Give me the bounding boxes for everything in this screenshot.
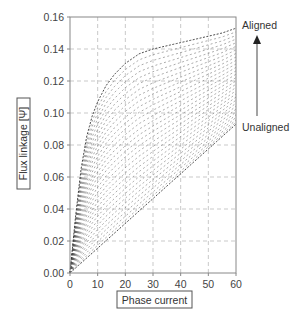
intermediate-curve xyxy=(70,53,236,273)
x-tick-label: 0 xyxy=(67,278,73,290)
x-tick-label: 20 xyxy=(119,278,131,290)
x-tick-label: 10 xyxy=(92,278,104,290)
grid-lines xyxy=(70,17,236,273)
y-tick-label: 0.16 xyxy=(44,11,65,23)
y-tick-label: 0.10 xyxy=(44,107,65,119)
y-tick-label: 0.08 xyxy=(44,139,65,151)
y-axis-label: Flux linkage [Ψ] xyxy=(17,98,30,189)
aligned-annotation: Aligned xyxy=(242,19,277,31)
arrow-up-icon xyxy=(253,35,261,116)
y-tick-label: 0.02 xyxy=(44,235,65,247)
x-tick-label: 30 xyxy=(147,278,159,290)
y-axis-ticks: 0.000.020.040.060.080.100.120.140.16 xyxy=(44,11,70,279)
x-tick-label: 50 xyxy=(202,278,214,290)
x-axis-label-text: Phase current xyxy=(122,294,187,306)
x-axis-ticks: 0102030405060 xyxy=(67,273,242,290)
x-tick-label: 40 xyxy=(175,278,187,290)
x-tick-label: 60 xyxy=(230,278,242,290)
y-tick-label: 0.00 xyxy=(44,267,65,279)
y-tick-label: 0.06 xyxy=(44,171,65,183)
unaligned-annotation: Unaligned xyxy=(242,121,289,133)
x-axis-label: Phase current xyxy=(117,291,192,308)
y-tick-label: 0.04 xyxy=(44,203,65,215)
y-tick-label: 0.12 xyxy=(44,75,65,87)
y-tick-label: 0.14 xyxy=(44,43,65,55)
y-axis-label-text: Flux linkage [Ψ] xyxy=(17,107,29,181)
flux-linkage-chart: 0.000.020.040.060.080.100.120.140.16 010… xyxy=(0,0,301,326)
